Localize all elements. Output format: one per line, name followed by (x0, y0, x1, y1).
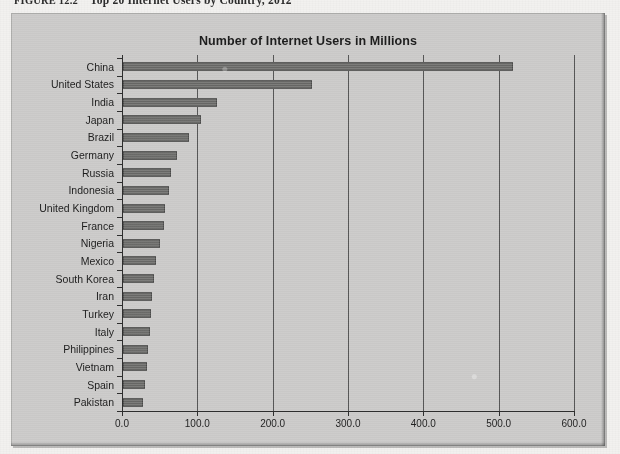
bar-mexico (123, 256, 156, 265)
category-label-philippines: Philippines (63, 343, 114, 355)
bar-vietnam (123, 362, 147, 371)
x-tick-300.0 (348, 411, 349, 416)
category-label-turkey: Turkey (82, 308, 114, 320)
category-label-france: France (81, 220, 114, 232)
x-tick-label: 600.0 (561, 418, 586, 429)
figure-caption-text: Top 20 Internet Users by Country, 2012 (90, 0, 292, 6)
bar-italy (123, 327, 150, 336)
category-label-brazil: Brazil (88, 131, 114, 143)
y-tick (117, 252, 122, 253)
chart-title: Number of Internet Users in Millions (11, 34, 605, 48)
y-tick (117, 305, 122, 306)
y-tick (117, 376, 122, 377)
category-label-china: China (87, 61, 114, 73)
panel-right-shadow (601, 13, 605, 446)
category-label-united-states: United States (51, 78, 114, 90)
x-tick-label: 500.0 (486, 418, 511, 429)
gridline-500.0 (499, 55, 500, 411)
x-tick-500.0 (499, 411, 500, 416)
category-label-russia: Russia (82, 167, 114, 179)
y-tick (117, 76, 122, 77)
y-tick (117, 111, 122, 112)
x-tick-200.0 (273, 411, 274, 416)
bar-china (123, 62, 513, 71)
y-tick (117, 217, 122, 218)
category-label-pakistan: Pakistan (74, 396, 114, 408)
y-tick (117, 182, 122, 183)
x-tick-label: 100.0 (185, 418, 210, 429)
y-tick (117, 164, 122, 165)
category-label-mexico: Mexico (81, 255, 114, 267)
y-tick (117, 287, 122, 288)
category-label-germany: Germany (71, 149, 114, 161)
y-axis-line (122, 55, 123, 411)
y-tick (117, 358, 122, 359)
y-tick (117, 411, 122, 412)
category-label-indonesia: Indonesia (68, 184, 114, 196)
y-tick (117, 235, 122, 236)
gridline-300.0 (348, 55, 349, 411)
category-label-south-korea: South Korea (56, 273, 114, 285)
x-tick-0.0 (122, 411, 123, 416)
bar-iran (123, 292, 152, 301)
x-tick-400.0 (423, 411, 424, 416)
figure-caption-number: FIGURE 12.2 (14, 0, 78, 6)
bar-philippines (123, 345, 148, 354)
y-tick (117, 58, 122, 59)
y-tick (117, 129, 122, 130)
bar-indonesia (123, 186, 169, 195)
bar-united-states (123, 80, 312, 89)
y-tick (117, 146, 122, 147)
bar-russia (123, 168, 171, 177)
y-tick (117, 93, 122, 94)
x-tick-100.0 (197, 411, 198, 416)
x-tick-label: 200.0 (260, 418, 285, 429)
bar-japan (123, 115, 201, 124)
y-tick (117, 340, 122, 341)
bar-nigeria (123, 239, 160, 248)
y-tick (117, 199, 122, 200)
bar-brazil (123, 133, 189, 142)
category-label-japan: Japan (85, 114, 114, 126)
panel-bottom-shadow (11, 442, 605, 446)
category-label-iran: Iran (96, 290, 114, 302)
bar-spain (123, 380, 145, 389)
chart-panel: Number of Internet Users in Millions 0.0… (11, 13, 605, 446)
category-label-vietnam: Vietnam (76, 361, 114, 373)
y-tick (117, 270, 122, 271)
bar-turkey (123, 309, 151, 318)
gridline-600.0 (574, 55, 575, 411)
bar-india (123, 98, 217, 107)
category-label-italy: Italy (95, 326, 114, 338)
plot-area: 0.0100.0200.0300.0400.0500.0600.0 ChinaU… (122, 58, 574, 411)
x-tick-label: 300.0 (335, 418, 360, 429)
x-tick-600.0 (574, 411, 575, 416)
category-label-spain: Spain (87, 379, 114, 391)
x-tick-label: 0.0 (115, 418, 129, 429)
x-tick-label: 400.0 (411, 418, 436, 429)
bar-pakistan (123, 398, 143, 407)
bar-france (123, 221, 164, 230)
gridline-200.0 (273, 55, 274, 411)
gridline-400.0 (423, 55, 424, 411)
category-label-india: India (91, 96, 114, 108)
figure-caption: FIGURE 12.2Top 20 Internet Users by Coun… (14, 0, 292, 10)
gridline-100.0 (197, 55, 198, 411)
y-tick (117, 393, 122, 394)
bar-germany (123, 151, 177, 160)
category-label-united-kingdom: United Kingdom (39, 202, 114, 214)
y-tick (117, 323, 122, 324)
category-label-nigeria: Nigeria (81, 237, 114, 249)
bar-south-korea (123, 274, 154, 283)
bar-united-kingdom (123, 204, 165, 213)
